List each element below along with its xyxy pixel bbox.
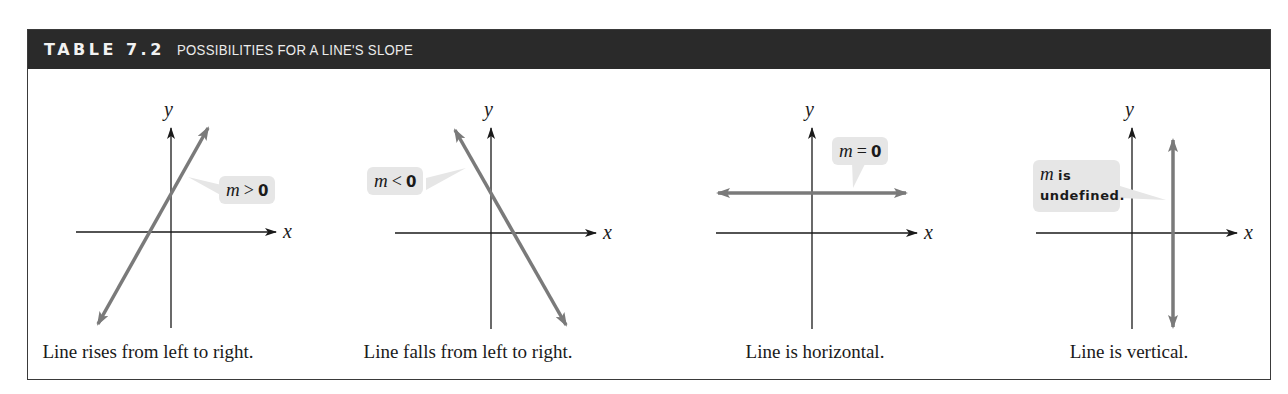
slope-variable: m (839, 140, 853, 161)
relation-symbol: < (392, 171, 402, 191)
x-axis-label: x (283, 220, 292, 243)
slope-callout-zero: m=0 (832, 137, 888, 165)
slope-line (98, 128, 208, 324)
relation-symbol: > (244, 180, 254, 200)
slope-line (455, 130, 566, 325)
relation-symbol: = (857, 141, 867, 161)
caption-positive: Line rises from left to right. (42, 341, 253, 363)
caption-vertical: Line is vertical. (1070, 341, 1189, 363)
slope-value: 0 (258, 182, 268, 200)
panel-negative-slope (395, 128, 596, 329)
y-axis-label: y (164, 98, 173, 121)
x-axis-label: x (603, 221, 612, 244)
callout-word: undefined. (1040, 188, 1125, 203)
slope-callout-positive: m>0 (219, 176, 275, 204)
callout-word: is (1058, 168, 1071, 183)
slope-callout-undefined: m is undefined. (1033, 160, 1120, 212)
slope-variable: m (374, 170, 388, 191)
callout-pointer (852, 162, 866, 188)
y-axis-label: y (484, 98, 493, 121)
caption-horizontal: Line is horizontal. (746, 341, 885, 363)
panel-positive-slope (76, 128, 276, 328)
slope-callout-negative: m<0 (367, 167, 423, 195)
y-axis-label: y (805, 98, 814, 121)
x-axis-label: x (1244, 221, 1253, 244)
slope-variable: m (1040, 163, 1054, 184)
slope-value: 0 (406, 173, 416, 191)
caption-negative: Line falls from left to right. (364, 341, 573, 363)
x-axis-label: x (924, 221, 933, 244)
slope-value: 0 (871, 143, 881, 161)
y-axis-label: y (1125, 98, 1134, 121)
panel-undefined-slope (1036, 128, 1237, 329)
callout-pointer (426, 168, 466, 190)
callout-pointer (1120, 186, 1166, 200)
slope-variable: m (226, 179, 240, 200)
